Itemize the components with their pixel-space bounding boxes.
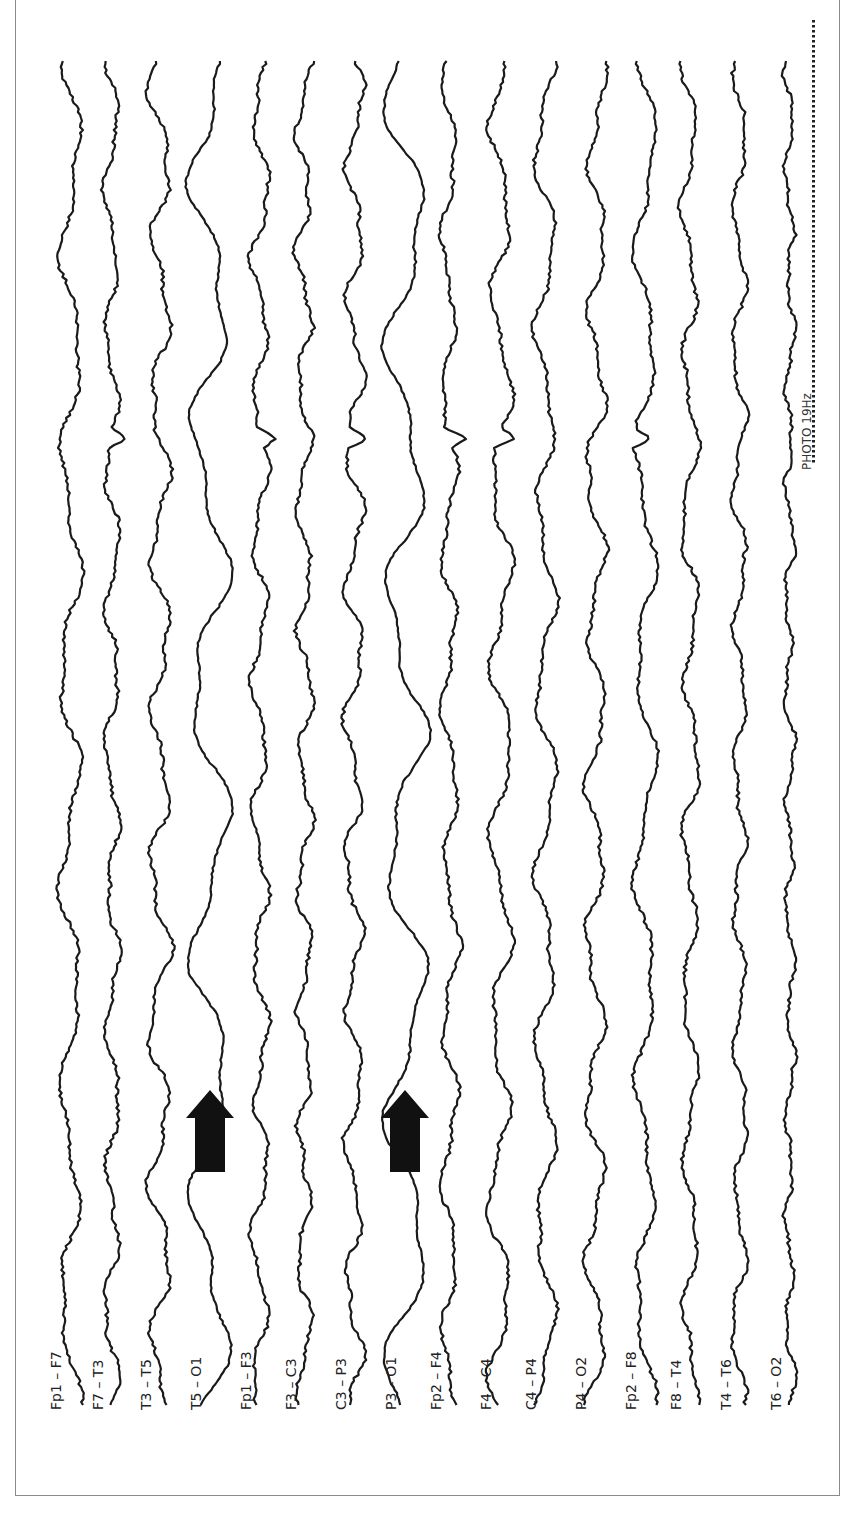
- eeg-trace: [731, 61, 750, 1405]
- channel-label: T5 – O1: [188, 1357, 204, 1410]
- channel-label: T4 – T6: [718, 1359, 734, 1410]
- channel-label: C3 – P3: [333, 1358, 349, 1410]
- eeg-trace: [782, 61, 798, 1405]
- eeg-trace: [292, 61, 315, 1405]
- eeg-trace: [678, 61, 701, 1405]
- eeg-trace: [145, 61, 174, 1405]
- channel-label: T6 – O2: [768, 1357, 784, 1410]
- eeg-trace: [341, 61, 366, 1405]
- channel-label: Fp1 – F3: [238, 1351, 254, 1410]
- eeg-trace: [56, 61, 84, 1405]
- eeg-trace: [248, 61, 276, 1405]
- channel-label: Fp1 – F7: [48, 1351, 64, 1410]
- eeg-trace: [101, 61, 125, 1405]
- channel-label: F3 – C3: [283, 1358, 299, 1410]
- photic-stimulation-label: PHOTO 19Hz: [800, 393, 814, 470]
- channel-label: F8 – T4: [668, 1360, 684, 1410]
- eeg-trace: [583, 61, 610, 1405]
- channel-label: Fp2 – F4: [428, 1351, 444, 1410]
- eeg-trace: [185, 61, 233, 1405]
- eeg-trace: [486, 61, 516, 1405]
- channel-label: Fp2 – F8: [623, 1351, 639, 1410]
- eeg-trace: [631, 61, 659, 1405]
- eeg-trace: [439, 61, 466, 1405]
- channel-label: F4 – C4: [478, 1358, 494, 1410]
- eeg-traces: [0, 0, 853, 1515]
- eeg-trace: [532, 61, 560, 1405]
- channel-label: P4 – O2: [573, 1357, 589, 1410]
- channel-label: P3 – O1: [383, 1357, 399, 1410]
- channel-label: C4 – P4: [523, 1358, 539, 1410]
- eeg-trace: [381, 61, 431, 1405]
- channel-label: T3 – T5: [138, 1359, 154, 1410]
- arrow-up-icon: [186, 1090, 234, 1172]
- channel-label: F7 – T3: [90, 1360, 106, 1410]
